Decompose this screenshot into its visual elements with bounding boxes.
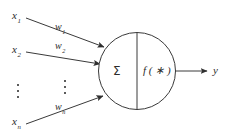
- activation-function-label: f ( ∗ ): [143, 65, 171, 76]
- input-label-xn: xn: [12, 116, 20, 130]
- input-arrow-1: [26, 18, 104, 47]
- neuron-diagram: x1 x2 xn w1 w2 wn Σ f ( ∗ ) y: [0, 0, 231, 139]
- weight-label-w2: w2: [55, 41, 65, 53]
- ellipsis-dot: [64, 86, 66, 88]
- ellipsis-dot: [17, 84, 19, 86]
- ellipsis-dot: [64, 80, 66, 82]
- ellipsis-dot: [17, 96, 19, 98]
- ellipsis-dot: [17, 90, 19, 92]
- output-label-y: y: [213, 65, 218, 76]
- input-label-x2: x2: [12, 44, 20, 58]
- summation-symbol: Σ: [113, 65, 121, 77]
- ellipsis-dot: [64, 92, 66, 94]
- weight-label-wn: wn: [55, 102, 65, 114]
- input-column-ellipsis-icon: [17, 84, 19, 98]
- input-label-x1: x1: [12, 10, 20, 24]
- weight-column-ellipsis-icon: [64, 80, 66, 94]
- weight-label-w1: w1: [55, 22, 65, 34]
